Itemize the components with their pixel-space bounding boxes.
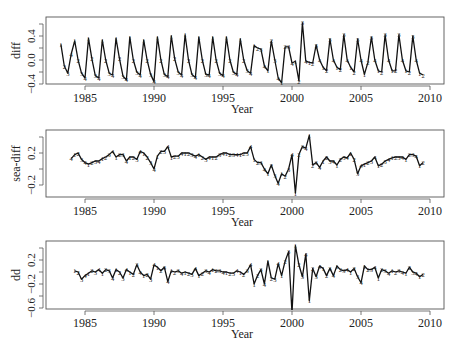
- point-marker: 1: [266, 258, 269, 265]
- point-marker: 4: [290, 151, 294, 158]
- point-marker: 2: [325, 272, 328, 279]
- y-tick-label: 0.2: [25, 253, 37, 267]
- point-marker: 3: [328, 36, 331, 43]
- point-marker: 2: [297, 261, 300, 268]
- point-marker: 2: [325, 67, 328, 74]
- point-marker: 4: [277, 180, 281, 187]
- point-marker: 2: [339, 66, 342, 73]
- point-marker: 2: [394, 67, 397, 74]
- point-marker: 3: [356, 170, 359, 177]
- x-axis-label: Year: [231, 327, 253, 341]
- point-marker: 4: [249, 261, 253, 268]
- point-marker: 4: [249, 70, 253, 77]
- point-marker: 2: [76, 269, 79, 276]
- point-marker: 2: [421, 159, 424, 166]
- x-tick-label: 2005: [349, 316, 373, 330]
- point-marker: 1: [156, 34, 159, 41]
- point-marker: 2: [132, 271, 135, 278]
- x-tick-label: 2005: [349, 204, 373, 218]
- point-marker: 1: [73, 37, 76, 44]
- point-marker: 2: [118, 55, 121, 62]
- point-marker: 4: [332, 272, 336, 279]
- point-marker: 1: [197, 34, 200, 41]
- point-marker: 1: [280, 272, 283, 279]
- panel-sea-diff: −0.20.2sea-diff198519901995200020052010Y…: [9, 130, 444, 229]
- point-marker: 2: [270, 37, 273, 44]
- series-line: [61, 23, 423, 83]
- point-marker: 3: [190, 271, 193, 278]
- point-marker: 2: [63, 63, 66, 70]
- y-tick-label: 0.0: [25, 53, 37, 67]
- point-marker: 1: [308, 132, 311, 139]
- point-marker: 1: [363, 71, 366, 78]
- point-marker: 1: [377, 275, 380, 282]
- point-marker: 2: [159, 57, 162, 64]
- point-marker: 4: [152, 166, 156, 173]
- x-tick-label: 1990: [142, 91, 166, 105]
- point-marker: 3: [66, 70, 69, 77]
- point-marker: 1: [239, 36, 242, 43]
- point-marker: 2: [380, 69, 383, 76]
- point-marker: 3: [301, 273, 304, 280]
- point-marker: 3: [149, 71, 152, 78]
- point-marker: 1: [294, 58, 297, 65]
- point-marker: 4: [263, 281, 267, 288]
- point-marker: 2: [173, 55, 176, 62]
- point-marker: 2: [408, 69, 411, 76]
- point-marker: 4: [166, 73, 170, 80]
- point-marker: 4: [97, 75, 101, 82]
- point-marker: 1: [170, 33, 173, 40]
- point-marker: 2: [228, 57, 231, 64]
- figure: −0.40.00.4diff198519901995200020052010Ye…: [0, 0, 468, 352]
- point-marker: 4: [373, 57, 377, 64]
- point-marker: 3: [246, 267, 249, 274]
- point-marker: 3: [342, 31, 345, 38]
- point-marker: 2: [214, 57, 217, 64]
- point-marker: 4: [359, 279, 363, 286]
- point-marker: 3: [287, 248, 290, 255]
- point-marker: 4: [111, 275, 115, 282]
- point-marker: 2: [352, 265, 355, 272]
- point-marker: 2: [145, 57, 148, 64]
- point-marker: 2: [132, 57, 135, 64]
- point-marker: 3: [163, 264, 166, 271]
- point-marker: 1: [87, 35, 90, 42]
- point-marker: 2: [421, 271, 424, 278]
- y-tick-label: 0.2: [25, 146, 37, 160]
- point-marker: 4: [304, 251, 308, 258]
- point-marker: 1: [128, 34, 131, 41]
- point-marker: 4: [373, 154, 377, 161]
- point-marker: 4: [180, 72, 184, 79]
- point-marker: 1: [404, 270, 407, 277]
- point-marker: 2: [352, 69, 355, 76]
- y-tick-label: −0.6: [25, 298, 37, 318]
- point-marker: 3: [287, 43, 290, 50]
- point-marker: 3: [273, 57, 276, 64]
- point-marker: 3: [370, 34, 373, 41]
- point-marker: 1: [225, 34, 228, 41]
- point-marker: 2: [421, 72, 424, 79]
- point-marker: 3: [384, 31, 387, 38]
- point-marker: 2: [242, 57, 245, 64]
- y-tick-label: 0.4: [25, 29, 37, 43]
- x-tick-label: 2005: [349, 91, 373, 105]
- point-marker: 4: [235, 71, 239, 78]
- point-marker: 3: [246, 150, 249, 157]
- point-marker: 4: [125, 76, 129, 83]
- point-marker: 3: [273, 172, 276, 179]
- point-marker: 1: [294, 242, 297, 249]
- point-marker: 2: [90, 55, 93, 62]
- point-marker: 3: [121, 275, 124, 282]
- point-marker: 1: [266, 67, 269, 74]
- point-marker: 1: [280, 79, 283, 86]
- point-marker: 3: [328, 265, 331, 272]
- point-marker: 4: [359, 57, 363, 64]
- point-marker: 1: [59, 41, 62, 48]
- panel-diff: −0.40.00.4diff198519901995200020052010Ye…: [9, 17, 444, 116]
- point-marker: 3: [411, 33, 414, 40]
- point-marker: 1: [266, 170, 269, 177]
- point-marker: 1: [142, 37, 145, 44]
- point-marker: 3: [135, 156, 138, 163]
- point-marker: 4: [221, 72, 225, 79]
- point-marker: 4: [373, 264, 377, 271]
